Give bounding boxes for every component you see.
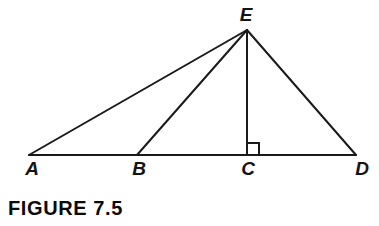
vertex-label-d: D	[355, 159, 369, 178]
segment-side-AE	[29, 30, 247, 155]
figure-caption: FIGURE 7.5	[8, 197, 123, 219]
vertex-label-a: A	[25, 159, 39, 178]
vertex-label-b: B	[132, 159, 146, 178]
segment-cevian-BE	[137, 30, 247, 155]
vertex-label-e: E	[240, 5, 253, 24]
right-angle-icon	[247, 143, 259, 155]
figure-container: A B C D E FIGURE 7.5	[0, 0, 379, 226]
vertex-label-c: C	[241, 159, 255, 178]
geometry-drawing	[0, 0, 379, 226]
segment-side-DE	[247, 30, 356, 155]
